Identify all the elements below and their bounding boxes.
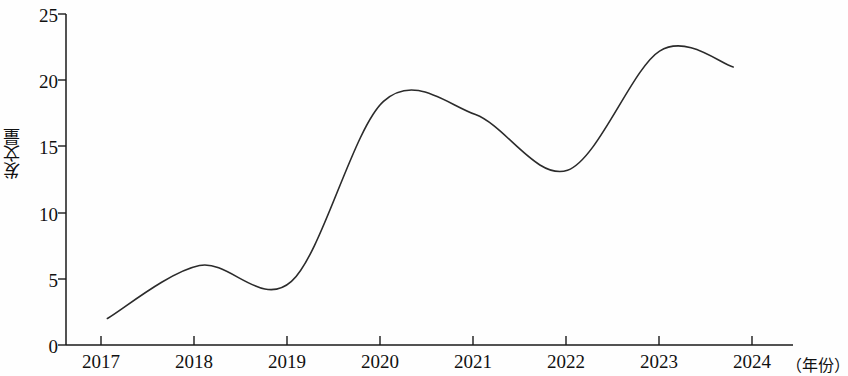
chart-container: 发文量 （年份） 25 20 15 10 5 0 2017 2018 2019 … — [0, 0, 848, 376]
y-axis-ticks — [58, 14, 66, 345]
plot-area — [0, 0, 848, 376]
data-line-series-publications — [107, 46, 733, 319]
x-axis-ticks — [101, 336, 752, 345]
